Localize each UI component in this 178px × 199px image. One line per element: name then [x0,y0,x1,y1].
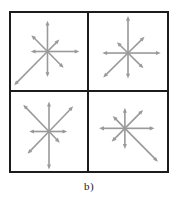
arrow-down-left [14,52,47,86]
arrow-up [126,16,130,53]
arrow-up [123,108,127,129]
figure-root: b) [0,0,178,199]
arrow-rosette-bottom-left [11,92,87,171]
arrow-up-right [125,110,143,128]
arrow-down [46,52,50,77]
arrow-down-left [28,132,49,154]
arrow-up [47,101,51,131]
arrow-up-left [117,42,128,53]
arrow-left [29,129,49,133]
arrow-up [46,21,50,52]
arrow-left [102,51,128,55]
arrow-down [126,53,130,78]
panel-bottom-left [11,92,89,171]
panel-top-left [11,13,89,92]
arrow-down-left [103,53,128,78]
arrow-down-right [49,132,60,143]
arrow-up-left [113,116,125,128]
arrow-up-right [128,37,145,53]
arrow-up-right [47,40,59,52]
arrow-right [125,126,155,130]
arrow-rosette-top-left [11,13,87,90]
panel-bottom-right [89,92,167,171]
arrow-right [128,51,161,55]
arrow-rosette-bottom-right [89,92,167,171]
arrow-right [49,129,67,133]
arrow-rosette-top-right [89,13,167,90]
arrow-up-left [23,105,49,132]
arrow-left [99,126,125,130]
quadrant-grid [9,11,169,173]
arrow-down-right [128,53,143,68]
arrow-down [123,128,127,149]
arrow-right [47,49,79,53]
arrow-down [47,132,51,170]
panel-top-right [89,13,167,92]
figure-caption: b) [0,180,178,192]
arrow-up-right [49,106,73,131]
arrow-down-right [125,128,158,162]
arrow-up-left [31,35,47,51]
arrow-down-right [47,52,63,68]
arrow-down-left [112,128,125,141]
